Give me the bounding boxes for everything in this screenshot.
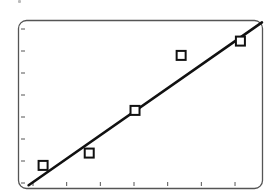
y-axis-ticks — [21, 29, 25, 183]
x-axis-ticks — [33, 182, 235, 186]
plot-frame — [19, 21, 263, 189]
data-point-square — [39, 161, 48, 170]
scatter-chart — [0, 0, 265, 190]
data-point-square — [85, 149, 94, 158]
data-point-square — [236, 37, 245, 46]
fit-line — [29, 22, 262, 185]
regression-line — [29, 22, 262, 185]
data-point-square — [177, 51, 186, 60]
plot-border — [19, 21, 263, 189]
data-point-square — [131, 106, 140, 115]
